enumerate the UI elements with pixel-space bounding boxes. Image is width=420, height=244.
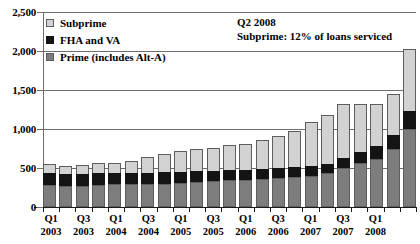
x-axis-label-year: 2006: [268, 225, 289, 238]
bar-q2-2003: [59, 166, 72, 207]
x-axis-label-year: 2007: [300, 225, 321, 238]
bar-segment-prime: [387, 149, 400, 207]
x-axis-label-quarter: Q1: [365, 212, 386, 225]
bar-q3-2006: [272, 136, 285, 207]
bar-segment-prime: [174, 183, 187, 207]
bar-q2-2006: [256, 140, 269, 207]
bar-segment-subprime: [387, 94, 400, 136]
bar-segment-prime: [239, 180, 252, 207]
legend-swatch-prime: [46, 53, 54, 61]
x-axis-label: Q32005: [203, 212, 224, 238]
bar-q4-2005: [223, 145, 236, 207]
y-axis-tick-label: 1,500: [12, 84, 43, 96]
x-axis-label: Q12004: [105, 212, 126, 238]
bar-segment-subprime: [190, 149, 203, 173]
x-axis-label-quarter: Q3: [138, 212, 159, 225]
bar-segment-prime: [370, 159, 383, 207]
bar-segment-subprime: [370, 104, 383, 148]
bar-segment-subprime: [354, 104, 367, 153]
bar-q4-2006: [288, 131, 301, 207]
bar-segment-prime: [141, 184, 154, 207]
bar-segment-subprime: [141, 157, 154, 174]
bar-q1-2006: [239, 144, 252, 207]
bar-segment-subprime: [321, 115, 334, 164]
x-axis-label-year: 2005: [170, 225, 191, 238]
bar-q4-2004: [158, 154, 171, 207]
bar-segment-fha: [403, 111, 416, 130]
bar-segment-prime: [43, 185, 56, 207]
bar-segment-prime: [223, 180, 236, 207]
bar-segment-prime: [403, 129, 416, 207]
x-axis-label: Q32004: [138, 212, 159, 238]
x-axis-label: Q32007: [333, 212, 354, 238]
x-axis-label-year: 2005: [203, 225, 224, 238]
bar-q1-2007: [305, 122, 318, 207]
x-axis-label-quarter: Q3: [203, 212, 224, 225]
legend-swatch-subprime: [46, 19, 54, 27]
annotation-line-2: Subprime: 12% of loans serviced: [237, 29, 392, 43]
bar-segment-subprime: [272, 136, 285, 170]
x-axis-label-quarter: Q1: [41, 212, 62, 225]
bar-q1-2003: [43, 164, 56, 207]
bar-q1-2005: [174, 151, 187, 207]
bar-segment-prime: [321, 173, 334, 207]
bar-q3-2007: [337, 104, 350, 207]
x-axis-label: Q12006: [235, 212, 256, 238]
bar-segment-subprime: [305, 122, 318, 166]
legend-label-prime: Prime (includes Alt-A): [60, 51, 166, 63]
x-axis-label-quarter: Q3: [268, 212, 289, 225]
bar-segment-prime: [59, 186, 72, 207]
bar-q2-2005: [190, 149, 203, 207]
bar-segment-prime: [158, 184, 171, 207]
bar-segment-subprime: [125, 161, 138, 174]
x-axis-label-year: 2006: [235, 225, 256, 238]
bar-segment-fha: [43, 173, 56, 187]
x-axis-label: Q12003: [41, 212, 62, 238]
bar-segment-prime: [108, 184, 121, 207]
bar-segment-prime: [190, 182, 203, 207]
bar-q4-2007: [354, 104, 367, 207]
bar-q4-2003: [92, 163, 105, 207]
x-axis-label-year: 2008: [365, 225, 386, 238]
y-axis-tick-label: 1,000: [12, 123, 43, 135]
x-axis-label-quarter: Q1: [235, 212, 256, 225]
bar-segment-fha: [370, 146, 383, 159]
bar-segment-subprime: [256, 140, 269, 170]
x-axis-label: Q32006: [268, 212, 289, 238]
x-axis-label-year: 2004: [105, 225, 126, 238]
bar-segment-subprime: [174, 151, 187, 172]
bar-q3-2003: [76, 165, 89, 207]
annotation-line-1: Q2 2008: [237, 15, 392, 29]
bar-q3-2008: [403, 49, 416, 207]
x-axis-label-quarter: Q1: [105, 212, 126, 225]
bar-segment-fha: [92, 173, 105, 186]
y-axis-tick-label: 500: [20, 162, 43, 174]
x-axis-label-quarter: Q3: [333, 212, 354, 225]
bar-segment-subprime: [239, 144, 252, 171]
x-axis-label: Q12008: [365, 212, 386, 238]
bar-segment-subprime: [337, 104, 350, 159]
x-axis-label-year: 2003: [41, 225, 62, 238]
bar-segment-prime: [207, 181, 220, 207]
bar-segment-subprime: [288, 131, 301, 168]
x-axis-label: Q12007: [300, 212, 321, 238]
legend-item-prime: Prime (includes Alt-A): [46, 48, 166, 65]
bar-segment-subprime: [207, 148, 220, 171]
stacked-bar-chart: 05001,0001,5002,0002,500 Q12003Q32003Q12…: [0, 0, 420, 244]
bar-segment-prime: [354, 163, 367, 207]
x-axis-label: Q12005: [170, 212, 191, 238]
bar-segment-subprime: [403, 49, 416, 112]
legend-swatch-fha: [46, 36, 54, 44]
legend-item-subprime: Subprime: [46, 14, 166, 31]
bar-q3-2005: [207, 148, 220, 207]
x-axis-label-year: 2007: [333, 225, 354, 238]
bar-segment-prime: [305, 176, 318, 207]
bar-segment-subprime: [223, 145, 236, 171]
bar-segment-fha: [59, 174, 72, 187]
bar-segment-prime: [125, 184, 138, 207]
x-axis-label-quarter: Q3: [73, 212, 94, 225]
x-axis-labels: Q12003Q32003Q12004Q32004Q12005Q32005Q120…: [43, 212, 416, 242]
x-axis-label-year: 2004: [138, 225, 159, 238]
y-axis-tick-label: 2,500: [12, 6, 43, 18]
x-axis-tick-mark: [416, 207, 417, 212]
